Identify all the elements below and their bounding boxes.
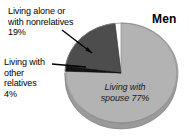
pie-label-living-with-other-relatives: Living with other relatives 4% [4,57,60,99]
chart-title: Men [152,14,177,25]
pie-label-living-alone-or-nonrelatives: Living alone or with nonrelatives 19% [8,6,92,38]
pie-chart-screenshot: Living alone or with nonrelatives 19% Li… [0,0,190,137]
pie-label-living-with-spouse: Living with spouse 77% [88,82,162,103]
